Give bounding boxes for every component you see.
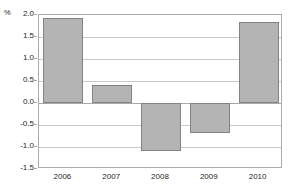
y-axis-tickmark bbox=[33, 168, 37, 169]
y-axis-tickmark bbox=[33, 146, 37, 147]
bar bbox=[239, 22, 279, 103]
y-axis-tickmark bbox=[33, 80, 37, 81]
y-axis-tick-label: -0.5 bbox=[0, 120, 34, 128]
y-axis-tick-label: 0.5 bbox=[0, 76, 34, 84]
y-axis-tick-labels: 2.01.51.00.50.0-0.5-1.0-1.5 bbox=[0, 0, 34, 189]
y-axis-tick-label: -1.0 bbox=[0, 142, 34, 150]
plot-area bbox=[38, 14, 282, 168]
bar bbox=[92, 85, 132, 103]
y-axis-tickmark bbox=[33, 102, 37, 103]
y-axis-tick-label: -1.5 bbox=[0, 164, 34, 172]
bar-chart: % 2.01.51.00.50.0-0.5-1.0-1.5 2006200720… bbox=[0, 0, 295, 189]
x-axis-tick-label: 2006 bbox=[42, 172, 82, 181]
bar bbox=[141, 103, 181, 151]
y-axis-tick-label: 1.5 bbox=[0, 32, 34, 40]
y-axis-tick-label: 2.0 bbox=[0, 10, 34, 18]
y-axis-tick-label: 1.0 bbox=[0, 54, 34, 62]
x-axis-tick-label: 2008 bbox=[140, 172, 180, 181]
y-axis-tickmark bbox=[33, 58, 37, 59]
x-axis-tick-label: 2007 bbox=[91, 172, 131, 181]
x-axis-tick-label: 2009 bbox=[189, 172, 229, 181]
y-axis-tickmark bbox=[33, 36, 37, 37]
x-axis-tick-label: 2010 bbox=[238, 172, 278, 181]
y-axis-tick-label: 0.0 bbox=[0, 98, 34, 106]
y-axis-tickmark bbox=[33, 14, 37, 15]
bar bbox=[190, 103, 230, 133]
y-axis-tickmark bbox=[33, 124, 37, 125]
bar bbox=[43, 18, 83, 103]
